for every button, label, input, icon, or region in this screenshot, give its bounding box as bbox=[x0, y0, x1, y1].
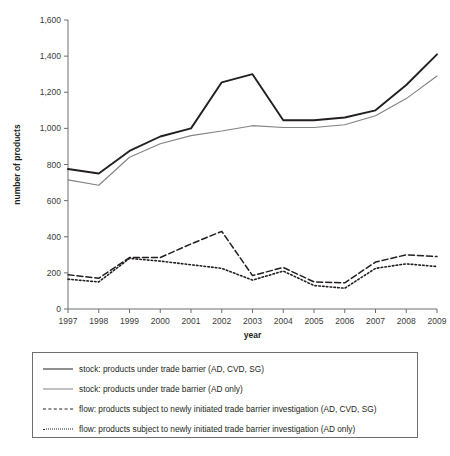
x-axis-tick-label: 2000 bbox=[151, 316, 170, 326]
x-axis-tick-label: 2007 bbox=[366, 316, 385, 326]
y-axis-tick-label: 1,000 bbox=[40, 123, 62, 133]
x-axis-tick-label: 2002 bbox=[212, 316, 231, 326]
x-axis-title: year bbox=[244, 330, 262, 340]
line-chart: 02004006008001,0001,2001,4001,6001997199… bbox=[0, 0, 450, 345]
series-line-0 bbox=[68, 54, 437, 173]
y-axis-tick-label: 1,200 bbox=[40, 87, 62, 97]
y-axis-tick-label: 0 bbox=[56, 304, 61, 314]
legend-swatch-solid-thick-icon bbox=[43, 364, 73, 374]
x-axis-tick-label: 1999 bbox=[120, 316, 139, 326]
x-axis-tick-label: 1997 bbox=[59, 316, 78, 326]
legend-label: stock: products under trade barrier (AD,… bbox=[79, 364, 264, 374]
y-axis-tick-label: 600 bbox=[47, 196, 61, 206]
y-axis-tick-label: 400 bbox=[47, 232, 61, 242]
figure-root: 02004006008001,0001,2001,4001,6001997199… bbox=[0, 0, 450, 456]
series-line-3 bbox=[68, 258, 437, 288]
x-axis-tick-label: 2008 bbox=[397, 316, 416, 326]
legend-item: stock: products under trade barrier (AD,… bbox=[33, 359, 417, 379]
chart-container: 02004006008001,0001,2001,4001,6001997199… bbox=[0, 0, 450, 345]
chart-legend: stock: products under trade barrier (AD,… bbox=[32, 352, 418, 438]
legend-swatch-dotted-icon bbox=[43, 424, 73, 434]
legend-label: stock: products under trade barrier (AD … bbox=[79, 384, 243, 394]
x-axis-tick-label: 2004 bbox=[274, 316, 293, 326]
legend-item: flow: products subject to newly initiate… bbox=[33, 399, 417, 419]
y-axis-tick-label: 1,600 bbox=[40, 15, 62, 25]
legend-item: stock: products under trade barrier (AD … bbox=[33, 379, 417, 399]
x-axis-tick-label: 2006 bbox=[335, 316, 354, 326]
x-axis-tick-label: 2005 bbox=[305, 316, 324, 326]
legend-label: flow: products subject to newly initiate… bbox=[79, 404, 376, 414]
legend-label: flow: products subject to newly initiate… bbox=[79, 424, 355, 434]
y-axis-tick-label: 1,400 bbox=[40, 51, 62, 61]
x-axis-tick-label: 2001 bbox=[182, 316, 201, 326]
y-axis-tick-label: 800 bbox=[47, 160, 61, 170]
x-axis-tick-label: 2009 bbox=[428, 316, 447, 326]
y-axis-title: number of products bbox=[12, 124, 22, 205]
legend-item: flow: products subject to newly initiate… bbox=[33, 419, 417, 439]
series-line-1 bbox=[68, 76, 437, 185]
legend-swatch-dashed-icon bbox=[43, 404, 73, 414]
legend-swatch-solid-thin-icon bbox=[43, 384, 73, 394]
x-axis-tick-label: 2003 bbox=[243, 316, 262, 326]
x-axis-tick-label: 1998 bbox=[89, 316, 108, 326]
y-axis-tick-label: 200 bbox=[47, 268, 61, 278]
series-line-2 bbox=[68, 231, 437, 282]
